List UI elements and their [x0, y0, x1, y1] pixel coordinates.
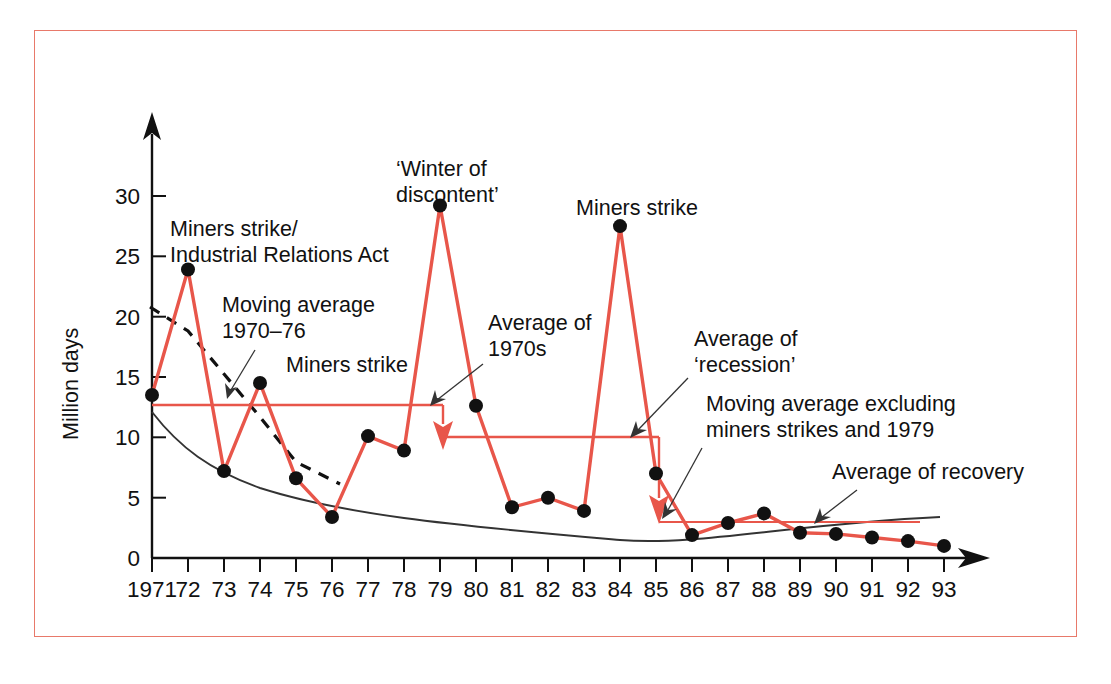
y-tick-label: 0	[127, 546, 140, 571]
data-point	[577, 504, 591, 518]
figure-caption-strip	[34, 652, 1077, 684]
x-tick-label: 77	[355, 577, 380, 602]
annotation-leader-arrowhead	[430, 390, 446, 406]
x-tick-label: 72	[175, 577, 200, 602]
x-tick-label: 86	[679, 577, 704, 602]
data-point	[469, 399, 483, 413]
x-tick-label: 1971	[127, 577, 177, 602]
annotation-leader-line	[668, 448, 702, 510]
x-tick-label: 73	[211, 577, 236, 602]
x-tick-label: 85	[643, 577, 668, 602]
y-tick-label: 25	[115, 244, 140, 269]
annotation-moving-average-1970-76: Moving average 1970–76	[222, 293, 375, 399]
annotation-line: 1970s	[488, 337, 547, 361]
annotation-miners-strike-1972: Miners strike/ Industrial Relations Act	[170, 217, 389, 267]
data-point	[541, 491, 555, 505]
data-point	[865, 531, 879, 545]
x-tick-label: 83	[571, 577, 596, 602]
y-tick-label: 20	[115, 305, 140, 330]
annotation-leader-line	[437, 364, 483, 400]
data-point	[613, 219, 627, 233]
figure-container: Million days 0 5 10 15 20 25 30 1971 72 …	[0, 0, 1111, 684]
annotation-line: 1970–76	[222, 319, 306, 343]
y-tick-labels: 0 5 10 15 20 25 30	[115, 184, 140, 571]
annotation-line: Average of	[488, 311, 592, 335]
annotation-line: Miners strike	[576, 196, 698, 220]
data-point	[757, 506, 771, 520]
data-point	[721, 516, 735, 530]
annotation-line: miners strikes and 1979	[706, 418, 934, 442]
annotation-line: Miners strike/	[170, 217, 298, 241]
x-tick-label: 79	[427, 577, 452, 602]
data-point	[397, 444, 411, 458]
annotation-average-of-recovery: Average of recovery	[814, 460, 1024, 524]
annotation-leader-arrowhead	[225, 383, 237, 399]
annotation-line: Miners strike	[286, 353, 408, 377]
average-drop-arrowhead	[433, 421, 453, 450]
y-tick-marks	[152, 196, 166, 558]
x-tick-label: 78	[391, 577, 416, 602]
data-point	[253, 376, 267, 390]
x-tick-label: 81	[499, 577, 524, 602]
annotation-miners-strike-1984: Miners strike	[576, 196, 698, 220]
annotation-line: discontent’	[396, 183, 499, 207]
data-point	[937, 539, 951, 553]
x-tick-marks	[152, 558, 944, 572]
x-tick-label: 92	[895, 577, 920, 602]
x-tick-label: 90	[823, 577, 848, 602]
x-tick-labels: 1971 72 73 74 75 76 77 78 79 80 81 82 83…	[127, 577, 957, 602]
annotation-miners-strike-1974: Miners strike	[286, 353, 408, 377]
data-point	[793, 526, 807, 540]
annotation-line: ‘Winter of	[396, 157, 487, 181]
annotation-line: ‘recession’	[694, 353, 796, 377]
data-point	[145, 388, 159, 402]
chart-svg: Million days 0 5 10 15 20 25 30 1971 72 …	[0, 0, 1111, 684]
annotation-line: Average of recovery	[832, 460, 1024, 484]
data-point	[901, 534, 915, 548]
annotation-moving-average-excluding: Moving average excluding miners strikes …	[662, 392, 956, 519]
x-tick-label: 88	[751, 577, 776, 602]
data-point	[361, 429, 375, 443]
x-tick-label: 76	[319, 577, 344, 602]
data-point	[685, 528, 699, 542]
y-axis-title: Million days	[59, 328, 83, 440]
data-point	[505, 500, 519, 514]
data-point	[829, 527, 843, 541]
x-tick-label: 75	[283, 577, 308, 602]
y-tick-label: 5	[127, 486, 140, 511]
y-tick-label: 10	[115, 425, 140, 450]
y-tick-label: 30	[115, 184, 140, 209]
data-point	[289, 471, 303, 485]
data-point	[217, 464, 231, 478]
x-tick-label: 87	[715, 577, 740, 602]
annotation-line: Industrial Relations Act	[170, 243, 389, 267]
x-tick-label: 80	[463, 577, 488, 602]
x-tick-label: 74	[247, 577, 272, 602]
annotation-line: Moving average	[222, 293, 375, 317]
annotation-winter-of-discontent: ‘Winter of discontent’	[396, 157, 499, 207]
annotation-average-of-1970s: Average of 1970s	[430, 311, 592, 406]
x-tick-label: 93	[931, 577, 956, 602]
y-tick-label: 15	[115, 365, 140, 390]
annotation-line: Average of	[694, 327, 798, 351]
data-point	[649, 467, 663, 481]
x-tick-label: 89	[787, 577, 812, 602]
annotation-leader-line	[822, 490, 857, 517]
x-tick-label: 91	[859, 577, 884, 602]
data-point	[325, 510, 339, 524]
annotation-line: Moving average excluding	[706, 392, 956, 416]
average-of-recession-line-group	[443, 437, 669, 524]
x-tick-label: 82	[535, 577, 560, 602]
annotation-leader-line	[231, 350, 255, 390]
x-tick-label: 84	[607, 577, 632, 602]
